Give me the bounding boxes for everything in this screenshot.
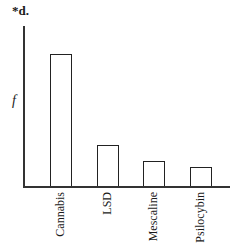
x-axis-line xyxy=(23,186,230,188)
bar-lsd xyxy=(97,145,119,186)
x-tick-label-mescaline: Mescaline xyxy=(146,192,161,241)
bar-psilocybin xyxy=(190,167,212,186)
y-axis-line xyxy=(23,26,25,187)
x-tick-label-lsd: LSD xyxy=(100,192,115,215)
chart-header: *d. xyxy=(12,3,29,19)
bar-mescaline xyxy=(143,161,165,186)
y-axis-label: f xyxy=(12,93,16,109)
x-tick-label-psilocybin: Psilocybin xyxy=(193,192,208,243)
bar-cannabis xyxy=(50,54,72,186)
x-tick-label-cannabis: Cannabis xyxy=(53,192,68,237)
